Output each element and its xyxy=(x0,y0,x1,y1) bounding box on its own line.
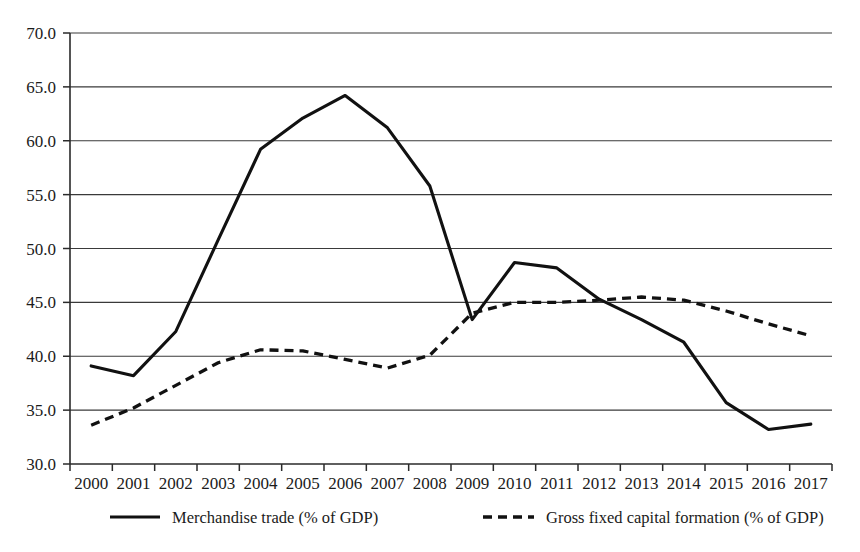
series-line-gross-fixed-capital-formation xyxy=(91,297,811,425)
x-axis-tick-label: 2007 xyxy=(371,474,406,493)
gridlines xyxy=(70,33,832,410)
x-axis-labels: 2000200120022003200420052006200720082009… xyxy=(74,474,828,493)
x-axis-tick-label: 2006 xyxy=(328,474,362,493)
chart-container: 30.035.040.045.050.055.060.065.070.0 200… xyxy=(0,0,860,552)
y-axis-tick-label: 35.0 xyxy=(26,401,56,420)
x-axis-tick-label: 2012 xyxy=(582,474,616,493)
x-axis-tick-label: 2002 xyxy=(159,474,193,493)
x-axis-tick-label: 2001 xyxy=(117,474,151,493)
y-axis-ticks xyxy=(63,33,70,464)
y-axis-tick-label: 55.0 xyxy=(26,186,56,205)
legend-label-gross-fixed-capital-formation: Gross fixed capital formation (% of GDP) xyxy=(546,508,824,527)
x-axis-tick-label: 2008 xyxy=(413,474,447,493)
y-axis-tick-label: 70.0 xyxy=(26,24,56,43)
x-axis-tick-label: 2014 xyxy=(667,474,702,493)
x-axis-tick-label: 2000 xyxy=(74,474,108,493)
y-axis-tick-label: 60.0 xyxy=(26,132,56,151)
y-axis-tick-label: 50.0 xyxy=(26,240,56,259)
legend-label-merchandise-trade: Merchandise trade (% of GDP) xyxy=(172,508,378,527)
y-axis-tick-label: 40.0 xyxy=(26,347,56,366)
x-axis-tick-label: 2017 xyxy=(794,474,829,493)
x-axis-tick-label: 2013 xyxy=(625,474,659,493)
y-axis-tick-label: 45.0 xyxy=(26,293,56,312)
x-axis-tick-label: 2009 xyxy=(455,474,489,493)
y-axis-tick-label: 65.0 xyxy=(26,78,56,97)
x-axis-tick-label: 2004 xyxy=(244,474,279,493)
y-axis-labels: 30.035.040.045.050.055.060.065.070.0 xyxy=(26,24,56,474)
y-axis-tick-label: 30.0 xyxy=(26,455,56,474)
x-axis-tick-label: 2015 xyxy=(709,474,743,493)
x-axis-ticks xyxy=(70,464,832,471)
x-axis-tick-label: 2003 xyxy=(201,474,235,493)
x-axis-tick-label: 2005 xyxy=(286,474,320,493)
series-line-merchandise-trade xyxy=(91,95,811,429)
line-chart: 30.035.040.045.050.055.060.065.070.0 200… xyxy=(0,0,860,552)
x-axis-tick-label: 2011 xyxy=(540,474,573,493)
x-axis-tick-label: 2010 xyxy=(498,474,532,493)
x-axis-tick-label: 2016 xyxy=(752,474,786,493)
